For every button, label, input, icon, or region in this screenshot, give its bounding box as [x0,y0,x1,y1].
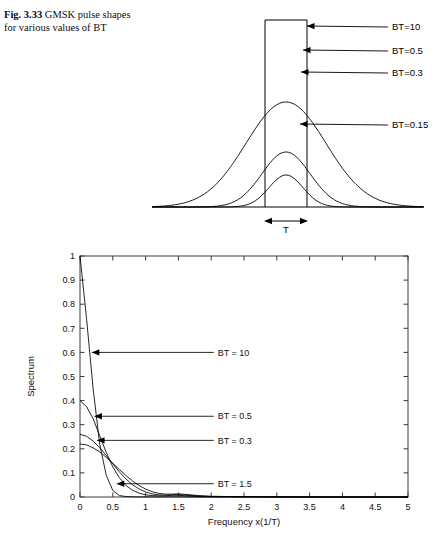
annotation-bt10-arrowhead [307,23,315,29]
x-tick-label: 2 [209,502,214,512]
y-tick-label: 0 [70,492,75,502]
x-tick-label: 4.5 [369,502,382,512]
annotation-bt10-arrowhead [92,349,100,355]
annotation-label-bt015: BT=0.15 [392,119,428,130]
y-axis-label: Spectrum [25,356,36,397]
y-tick-label: 0.5 [62,372,75,382]
gaussian-pulse-bt015 [152,102,424,207]
y-tick-label: 0.2 [62,444,75,454]
annotation-label-bt05: BT=0.5 [392,45,423,56]
gmsk-pulse-curves: BT=10BT=0.5BT=0.3BT=0.15T [152,20,428,235]
annotation-label-bt05: BT = 0.5 [218,411,252,421]
annotation-label-bt03: BT = 0.3 [218,436,252,446]
x-axis-label: Frequency x(1/T) [208,516,280,527]
x-tick-label: 3.5 [303,502,316,512]
series-bt10 [80,256,408,497]
gaussian-pulse-bt05 [152,175,424,207]
y-tick-label: 0.6 [62,348,75,358]
x-tick-label: 4 [340,502,345,512]
spectrum-chart-content: 00.511.522.533.544.5500.10.20.30.40.50.6… [25,251,411,527]
annotation-bt05-leader [303,50,388,51]
annotation-label-bt03: BT=0.3 [392,67,423,78]
spectrum-chart-figure: 00.511.522.533.544.5500.10.20.30.40.50.6… [0,235,440,550]
series-bt15 [80,444,408,497]
annotation-bt03-leader [301,72,388,73]
y-tick-label: 1 [70,251,75,261]
y-tick-label: 0.7 [62,324,75,334]
x-tick-label: 0.5 [107,502,120,512]
x-tick-label: 1 [143,502,148,512]
rect-pulse-bt10 [265,20,307,207]
x-tick-label: 1.5 [172,502,185,512]
gaussian-pulse-bt03 [152,152,424,207]
y-tick-label: 0.1 [62,468,75,478]
annotation-bt15-arrowhead [117,481,125,487]
x-tick-label: 3 [274,502,279,512]
annotation-bt05-arrowhead [94,413,102,419]
duration-label: T [283,224,289,235]
annotation-label-bt10: BT=10 [392,21,420,32]
annotation-bt10-leader [307,26,388,27]
duration-arrow-right-head [300,218,308,224]
gmsk-pulse-shape-svg: BT=10BT=0.5BT=0.3BT=0.15T [0,0,440,235]
annotation-bt015-arrowhead [300,121,308,127]
x-tick-label: 0 [77,502,82,512]
annotation-label-bt10: BT = 10 [218,348,250,358]
duration-arrow-left-head [264,218,272,224]
x-tick-label: 2.5 [238,502,251,512]
x-tick-label: 5 [405,502,410,512]
annotation-label-bt15: BT = 1.5 [218,479,252,489]
spectrum-chart-svg: 00.511.522.533.544.5500.10.20.30.40.50.6… [0,235,440,550]
y-tick-label: 0.9 [62,275,75,285]
y-tick-label: 0.4 [62,396,75,406]
annotation-bt03-arrowhead [301,69,309,75]
gmsk-pulse-shape-figure: BT=10BT=0.5BT=0.3BT=0.15T [0,0,440,235]
annotation-bt015-leader [300,124,388,125]
plot-frame [80,256,408,497]
y-tick-label: 0.3 [62,420,75,430]
y-tick-label: 0.8 [62,299,75,309]
